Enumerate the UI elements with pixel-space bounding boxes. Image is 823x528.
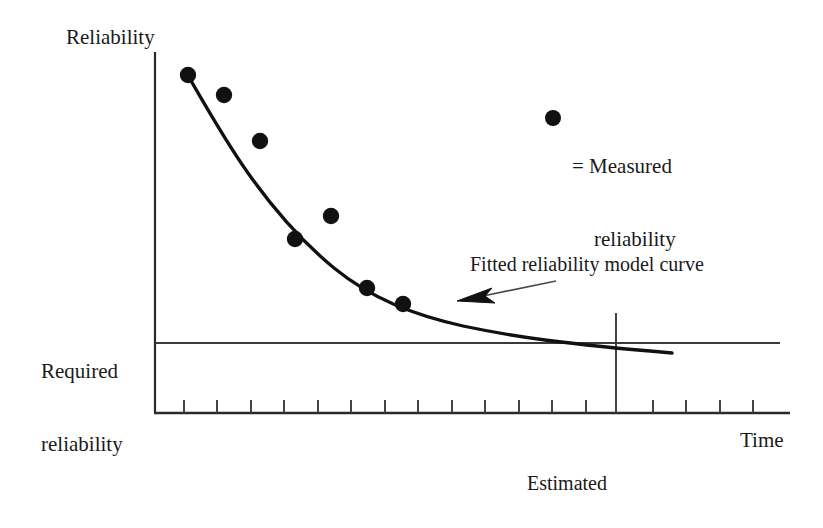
data-point xyxy=(323,208,339,224)
required-reliability-label-line1: Required xyxy=(41,359,123,383)
fitted-curve-annotation-label: Fitted reliability model curve xyxy=(470,253,704,276)
data-point xyxy=(395,296,411,312)
estimated-time-label-line1: Estimated xyxy=(527,472,667,495)
x-axis-ticks xyxy=(184,400,753,413)
required-reliability-label: Required reliability xyxy=(41,310,123,505)
legend-line2: reliability xyxy=(572,227,676,251)
data-point xyxy=(252,133,268,149)
y-axis-title: Reliability xyxy=(66,25,155,49)
x-axis-title: Time xyxy=(740,428,784,452)
legend-line1: = Measured xyxy=(572,154,676,178)
reliability-growth-figure: Reliability Time Required reliability = … xyxy=(0,0,823,528)
data-point xyxy=(216,87,232,103)
annotation-arrow xyxy=(457,281,556,303)
measured-reliability-points xyxy=(180,67,411,312)
required-reliability-label-line2: reliability xyxy=(41,432,123,456)
annotation-arrow-head xyxy=(457,288,495,303)
data-point xyxy=(180,67,196,83)
data-point xyxy=(287,231,303,247)
data-point xyxy=(359,280,375,296)
legend-marker-dot xyxy=(545,110,561,126)
estimated-time-label: Estimated time of reliability achievemen… xyxy=(527,426,667,528)
